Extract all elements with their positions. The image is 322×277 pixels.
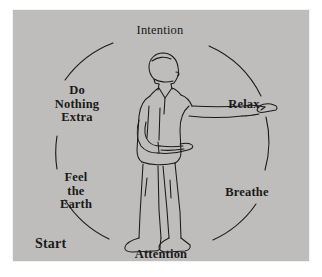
neck-left [158,84,159,90]
trouser-left-outer [139,164,143,238]
left-hand-fingers-1 [160,146,183,147]
shirt-collar [150,88,181,98]
feel-the-earth-line-3: Earth [41,198,111,212]
trouser-right-outer [175,163,181,238]
forearm-bottom [242,114,259,116]
do-nothing-extra-line-1: Do [37,84,117,98]
torso-fold-mid [159,108,160,140]
arc-feel-earth-to-do-nothing [56,136,57,169]
feel-the-earth-line-1: Feel [41,171,111,185]
trouser-left-inner [158,166,161,238]
arc-do-nothing-to-intention [65,43,113,80]
left-hand-top [158,143,193,153]
torso-right-side [175,106,189,163]
cycle-label-intention: Intention [112,24,208,37]
screenshot-root: Intention Relax Breathe Attention Feel t… [0,0,322,277]
jacket-hem [142,162,175,165]
cycle-label-start: Start [35,238,105,251]
feel-the-earth-line-2: the [41,185,111,199]
cycle-label-do-nothing-extra: Do Nothing Extra [37,84,117,125]
cycle-diagram-illustration [13,10,310,262]
man-figure [125,53,277,252]
shirt-placket [164,98,165,114]
trouser-crease-left [145,178,147,196]
arc-intention-to-relax [209,46,261,96]
arc-relax-to-breathe [265,117,269,170]
shoulder-right [181,95,192,106]
do-nothing-extra-line-3: Extra [37,111,117,125]
diagram-panel: Intention Relax Breathe Attention Feel t… [12,9,310,262]
left-wrist [158,142,159,153]
cycle-label-attention: Attention [109,248,213,261]
hairline [152,57,171,61]
arm-bottom-line [189,116,242,118]
arc-breathe-to-attention [213,204,256,240]
torso-fold-left [147,106,149,138]
cycle-label-relax: Relax [209,98,279,111]
trouser-right-inner [163,166,169,238]
cycle-label-feel-the-earth: Feel the Earth [41,171,111,212]
do-nothing-extra-line-2: Nothing [37,98,117,112]
cycle-label-breathe: Breathe [205,186,289,199]
trouser-crease-right [170,180,171,198]
jaw-line [154,79,173,82]
